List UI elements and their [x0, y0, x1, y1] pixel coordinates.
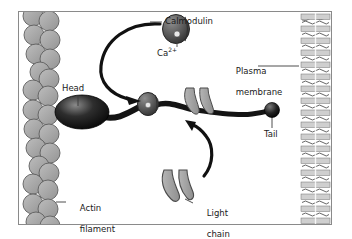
arrow-light-chain-to-neck — [185, 120, 212, 176]
label-plasma-membrane: Plasma membrane — [225, 55, 282, 108]
label-calcium-ion-text: Ca — [157, 48, 168, 58]
diagram-canvas — [0, 0, 352, 239]
myosin-head — [55, 95, 109, 129]
calmodulin-bound — [138, 93, 159, 116]
label-light-chain-line1: Light — [207, 208, 228, 218]
label-plasma-membrane-line1: Plasma — [236, 66, 267, 76]
label-calmodulin: Calmodulin — [165, 16, 213, 27]
label-calcium-ion-charge: 2+ — [168, 46, 177, 53]
label-actin-filament: Actin filament — [69, 192, 115, 239]
label-tail: Tail — [264, 129, 278, 140]
plasma-membrane — [301, 12, 330, 224]
actin-filament — [23, 6, 60, 236]
label-light-chain-line2: chain — [207, 229, 230, 239]
label-actin-filament-line1: Actin — [80, 203, 101, 213]
label-actin-filament-line2: filament — [80, 224, 115, 234]
label-head: Head — [62, 83, 84, 94]
label-plasma-membrane-line2: membrane — [236, 87, 283, 97]
light-chain-free — [162, 170, 193, 201]
label-light-chain: Light chain — [196, 197, 230, 239]
label-calcium-ion: Ca2+ — [157, 48, 177, 59]
myosin-actin-diagram: Calmodulin Ca2+ Plasma membrane Head Tai… — [0, 0, 352, 239]
